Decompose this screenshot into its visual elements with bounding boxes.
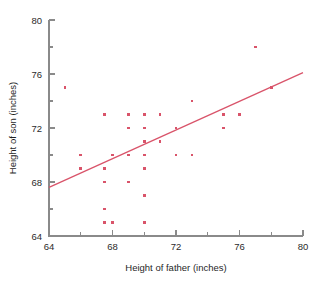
data-point xyxy=(79,154,82,157)
x-tick-label: 80 xyxy=(298,241,309,252)
y-tick-label: 76 xyxy=(31,69,42,80)
data-point xyxy=(64,86,67,89)
regression-line-segment xyxy=(49,73,303,188)
data-point xyxy=(143,127,146,130)
y-axis-label: Height of son (inches) xyxy=(7,82,18,174)
data-point xyxy=(222,113,225,116)
data-point xyxy=(127,113,130,116)
data-point xyxy=(175,154,178,157)
data-point xyxy=(103,221,106,224)
data-point xyxy=(143,154,146,157)
data-point xyxy=(79,167,82,170)
data-point xyxy=(111,154,114,157)
data-point xyxy=(254,46,257,49)
data-point xyxy=(270,86,273,89)
data-point xyxy=(238,113,241,116)
y-tick-label: 72 xyxy=(31,123,42,134)
y-tick-label: 64 xyxy=(31,231,42,242)
data-point xyxy=(103,113,106,116)
data-point xyxy=(103,181,106,184)
data-point xyxy=(103,167,106,170)
x-axis-label: Height of father (inches) xyxy=(125,262,226,273)
data-point xyxy=(143,113,146,116)
data-point xyxy=(175,127,178,130)
data-point xyxy=(191,100,194,103)
regression-line xyxy=(49,73,303,188)
data-point xyxy=(159,113,162,116)
data-point xyxy=(103,208,106,211)
scatter-plot-figure: 64687276806468727680 Height of father (i… xyxy=(0,0,318,283)
x-tick-label: 76 xyxy=(234,241,245,252)
data-point xyxy=(222,127,225,130)
data-point xyxy=(143,140,146,143)
data-point xyxy=(143,194,146,197)
y-tick-label: 68 xyxy=(31,177,42,188)
data-point xyxy=(143,167,146,170)
data-point xyxy=(127,127,130,130)
data-point xyxy=(127,154,130,157)
data-point xyxy=(127,181,130,184)
y-tick-label: 80 xyxy=(31,15,42,26)
data-point xyxy=(111,221,114,224)
x-tick-label: 64 xyxy=(44,241,55,252)
data-point xyxy=(143,221,146,224)
data-points xyxy=(64,46,273,224)
x-tick-label: 72 xyxy=(171,241,182,252)
data-point xyxy=(191,154,194,157)
data-point xyxy=(159,140,162,143)
chart-canvas: 64687276806468727680 Height of father (i… xyxy=(0,0,318,283)
x-tick-label: 68 xyxy=(107,241,118,252)
